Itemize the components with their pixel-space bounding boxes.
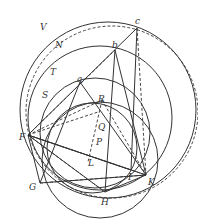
label-H: H: [100, 197, 109, 207]
label-T: T: [50, 67, 57, 77]
label-P: P: [95, 137, 103, 147]
geometry-diagram: V N T S a b c R Q P L F G H I K: [0, 0, 198, 223]
label-G: G: [29, 182, 36, 192]
label-b: b: [112, 40, 118, 50]
label-V: V: [40, 22, 48, 32]
label-L: L: [87, 158, 94, 168]
circle-T: [40, 78, 150, 188]
label-K: K: [147, 177, 156, 187]
label-R: R: [97, 94, 105, 104]
circle-lower: [42, 102, 158, 218]
label-Q: Q: [98, 122, 106, 132]
lines-solid: [28, 28, 146, 192]
label-S: S: [42, 90, 48, 100]
label-F: F: [18, 132, 26, 142]
label-c: c: [135, 16, 140, 26]
label-N: N: [54, 40, 64, 50]
label-a: a: [77, 74, 82, 84]
label-I: I: [127, 172, 132, 182]
